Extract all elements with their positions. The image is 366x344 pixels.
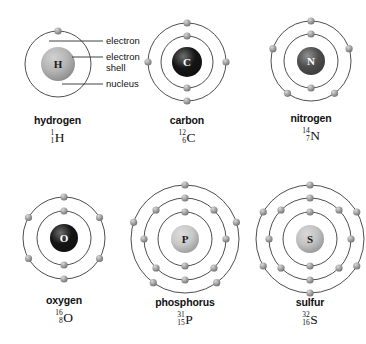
annotation-label-electron-shell-line1: electron	[106, 51, 140, 62]
annotation-leader-lines	[0, 0, 366, 344]
annotation-label-electron: electron	[106, 35, 140, 46]
atomic-structure-figure: H hydrogen 1 1 H C carbon 12 6 C N nitro…	[0, 0, 366, 344]
annotation-label-electron-shell-line2: shell	[106, 62, 126, 73]
annotation-label-nucleus: nucleus	[106, 78, 139, 89]
